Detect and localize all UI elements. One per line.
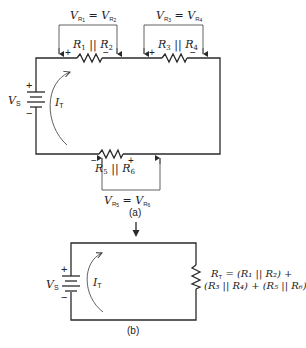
caption-a: (a) xyxy=(129,207,141,218)
down-arrow-icon xyxy=(133,222,140,237)
circuit-b-wires xyxy=(71,243,196,320)
voltage-equality-r1-r2: VR1 = VR2 xyxy=(70,9,117,23)
battery-icon xyxy=(62,276,80,291)
polarity-minus: − xyxy=(103,47,109,58)
equivalent-resistor-icon xyxy=(192,265,200,289)
voltage-equality-r3-r4: VR3 = VR4 xyxy=(156,9,203,23)
resistor-r5-r6 xyxy=(99,150,123,158)
resistor-r3-r4 xyxy=(162,54,187,62)
source-voltage-label: VS xyxy=(46,278,59,291)
current-label: IT xyxy=(92,276,102,289)
series-parallel-circuit-diagram: + − VS IT R1 || R2 + − VR1 = VR2 R3 xyxy=(0,0,306,348)
resistor-r1-r2 xyxy=(77,54,102,62)
equivalent-resistance-line2: (R₃ || R₄) + (R₅ || R₆) xyxy=(204,280,306,292)
battery-plus: + xyxy=(26,79,32,91)
figure-a: + − VS IT R1 || R2 + − VR1 = VR2 R3 xyxy=(8,9,220,218)
voltage-equality-r5-r6: VR5 = VR6 xyxy=(104,194,151,208)
battery-minus: − xyxy=(26,107,32,119)
caption-b: (b) xyxy=(127,325,139,336)
battery-plus: + xyxy=(61,263,67,275)
figure-b: + − VS IT RT = (R₁ || R₂) + (R₃ || R₄) +… xyxy=(46,243,306,336)
current-label: IT xyxy=(54,96,64,109)
resistor-r5-r6-label: R5 || R6 xyxy=(94,162,135,176)
polarity-plus: + xyxy=(65,47,71,58)
equivalent-resistance-line1: RT = (R₁ || R₂) + xyxy=(210,268,292,280)
polarity-plus: + xyxy=(149,47,155,58)
polarity-minus: − xyxy=(190,47,196,58)
source-voltage-label: VS xyxy=(8,94,21,107)
battery-minus: − xyxy=(61,291,67,303)
